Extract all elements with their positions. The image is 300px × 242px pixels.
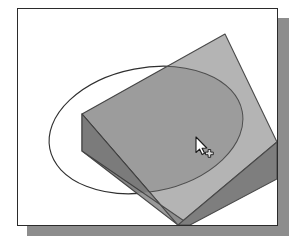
application-root: 3D Viewport Isometric extruded slab with… xyxy=(0,0,300,242)
window-title: 3D Viewport xyxy=(0,0,1,1)
viewport-frame xyxy=(17,8,278,226)
scene-description: Isometric extruded slab with a circular … xyxy=(0,0,1,1)
3d-modeling-viewport[interactable] xyxy=(18,9,277,225)
